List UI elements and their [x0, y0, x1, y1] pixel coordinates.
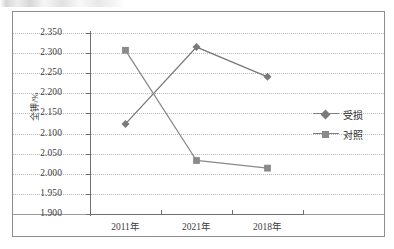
legend-item: 对照 [313, 124, 383, 144]
square-marker-icon [122, 47, 129, 54]
scan-artifact [0, 0, 394, 7]
series-line [126, 47, 268, 124]
chart-legend: 受损 对照 [313, 104, 383, 144]
diamond-marker-icon [264, 73, 272, 81]
diamond-marker-icon [313, 108, 339, 120]
square-marker-icon [193, 157, 200, 164]
legend-label: 受损 [343, 107, 363, 122]
square-marker-icon [313, 128, 339, 140]
chart-frame: 2.3502.3002.2502.2002.1502.1002.0502.000… [12, 11, 385, 237]
square-marker-icon [264, 165, 271, 172]
legend-item: 受损 [313, 104, 383, 124]
legend-label: 对照 [343, 127, 363, 142]
